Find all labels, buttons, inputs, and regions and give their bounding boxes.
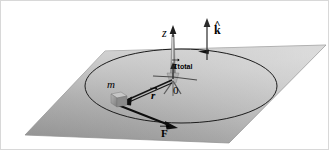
- F-vector-arrow: [160, 124, 170, 127]
- r-vector-arrow: [150, 86, 157, 89]
- torque-label: τtotal: [173, 61, 192, 71]
- tau-symbol: τ: [173, 60, 178, 71]
- force-vector-label: F: [161, 128, 168, 139]
- k-unit-vector-label: ^k: [214, 24, 221, 36]
- r-letter: r: [151, 89, 155, 101]
- torque-subscript: total: [178, 63, 193, 70]
- point-mass-cube: [111, 92, 127, 107]
- mass-label: m: [107, 79, 115, 90]
- z-axis-label: z: [162, 27, 167, 39]
- F-letter: F: [161, 127, 168, 139]
- position-vector-label: r: [151, 90, 155, 101]
- k-hat-mark: ^: [214, 19, 221, 30]
- tau-vector-arrow: [172, 58, 180, 61]
- origin-label: 0: [173, 85, 179, 96]
- torque-diagram-figure: z ^k τtotal 0 m r F: [0, 0, 329, 150]
